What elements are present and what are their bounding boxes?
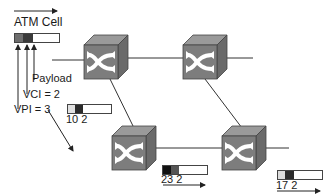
vpi-field — [15, 34, 23, 42]
cell-label-hop2: 23 2 — [161, 174, 182, 185]
atm-cell-source — [14, 33, 60, 43]
vci-label: VCI = 2 — [23, 89, 60, 100]
cell-label-hop3: 17 2 — [276, 180, 297, 191]
atm-switch-icon — [183, 35, 227, 79]
payload-field — [33, 34, 59, 42]
vci-field — [23, 34, 33, 42]
payload-label: Payload — [32, 73, 72, 84]
link-switch2-switch4 — [205, 79, 242, 128]
payload-field — [294, 171, 322, 179]
atm-cell-label: ATM Cell — [14, 16, 62, 28]
cell-label-hop1: 10 2 — [66, 114, 87, 125]
link-switch1-switch3 — [110, 79, 134, 128]
vpi-field — [68, 105, 75, 113]
vpi-field — [278, 171, 285, 179]
payload-field — [179, 166, 207, 174]
vpi-label: VPI = 3 — [14, 104, 50, 115]
vci-field — [75, 105, 83, 113]
atm-switch-icon — [222, 126, 266, 170]
atm-switch-icon — [84, 35, 128, 79]
atm-switch-icon — [112, 126, 156, 170]
vci-field — [285, 171, 294, 179]
payload-field — [83, 105, 111, 113]
